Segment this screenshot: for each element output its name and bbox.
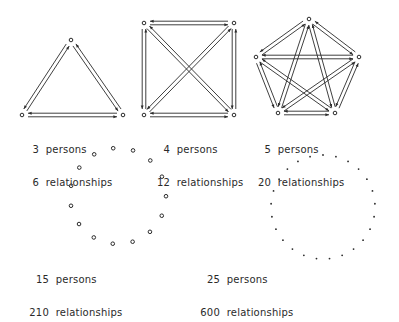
relationship-arrow: [339, 63, 358, 108]
person-node: [142, 113, 146, 117]
person-dot: [358, 168, 360, 170]
caption-four: 4 persons 12 relationships: [156, 122, 243, 199]
relationship-arrow: [73, 46, 118, 111]
relationship-arrow: [149, 29, 231, 112]
relationships-count: 20: [257, 177, 271, 188]
person-dot: [329, 258, 331, 260]
three-person-network: [20, 38, 125, 117]
relationship-arrow: [260, 21, 303, 52]
person-dot: [373, 216, 375, 218]
person-dot: [366, 178, 368, 180]
persons-count: 25: [200, 274, 220, 285]
persons-count: 5: [257, 144, 271, 155]
person-dot: [362, 239, 364, 241]
person-dot: [341, 254, 343, 256]
persons-count: 3: [31, 144, 39, 155]
person-node: [254, 55, 258, 59]
person-node: [232, 113, 236, 117]
person-node: [77, 222, 81, 226]
relationship-arrow: [309, 25, 332, 107]
caption-fifteen: 15 persons 210 relationships: [29, 252, 122, 322]
person-node: [357, 55, 361, 59]
person-node: [148, 230, 152, 234]
caption-three: 3 persons 6 relationships: [31, 122, 112, 199]
person-node: [148, 159, 152, 163]
persons-label: persons: [56, 274, 97, 285]
relationship-arrow: [315, 21, 355, 52]
caption-five: 5 persons 20 relationships: [257, 122, 344, 199]
person-dot: [275, 228, 277, 230]
person-dot: [347, 161, 349, 163]
relationships-count: 600: [200, 307, 220, 318]
persons-label: persons: [278, 144, 319, 155]
person-node: [276, 111, 280, 115]
relationships-label: relationships: [278, 177, 345, 188]
person-node: [92, 236, 96, 240]
person-dot: [374, 203, 376, 205]
relationships-label: relationships: [227, 307, 294, 318]
person-node: [333, 111, 337, 115]
person-node: [111, 242, 115, 246]
person-node: [121, 113, 125, 117]
relationships-count: 210: [29, 307, 49, 318]
relationship-arrow: [149, 26, 231, 109]
relationship-arrow: [313, 24, 353, 55]
relationship-arrow: [312, 24, 335, 106]
person-dot: [282, 239, 284, 241]
relationships-label: relationships: [56, 307, 123, 318]
person-node: [20, 113, 24, 117]
person-dot: [316, 258, 318, 260]
person-dot: [303, 254, 305, 256]
persons-label: persons: [227, 274, 268, 285]
person-node: [160, 214, 164, 218]
persons-label: persons: [46, 144, 87, 155]
relationship-arrow: [27, 46, 69, 111]
five-person-network: [254, 17, 361, 115]
relationship-arrow: [147, 29, 229, 112]
persons-count: 4: [156, 144, 170, 155]
person-dot: [353, 248, 355, 250]
person-node: [232, 21, 236, 25]
person-dot: [271, 216, 273, 218]
person-node: [307, 17, 311, 21]
person-dot: [372, 190, 374, 192]
persons-count: 15: [29, 274, 49, 285]
persons-label: persons: [177, 144, 218, 155]
person-dot: [369, 228, 371, 230]
person-node: [69, 204, 73, 208]
relationships-count: 12: [156, 177, 170, 188]
relationships-label: relationships: [177, 177, 244, 188]
relationship-arrow: [262, 24, 305, 55]
person-node: [142, 21, 146, 25]
person-node: [131, 149, 135, 153]
caption-twentyfive: 25 persons 600 relationships: [200, 252, 293, 322]
person-node: [69, 38, 73, 42]
person-node: [131, 240, 135, 244]
relationships-count: 6: [31, 177, 39, 188]
person-dot: [270, 203, 272, 205]
four-person-network: [142, 21, 236, 117]
relationships-label: relationships: [46, 177, 113, 188]
relationship-arrow: [24, 44, 66, 109]
relationship-arrow: [147, 26, 229, 109]
relationship-arrow: [262, 59, 331, 108]
person-dot: [292, 248, 294, 250]
relationship-arrow: [76, 44, 121, 109]
